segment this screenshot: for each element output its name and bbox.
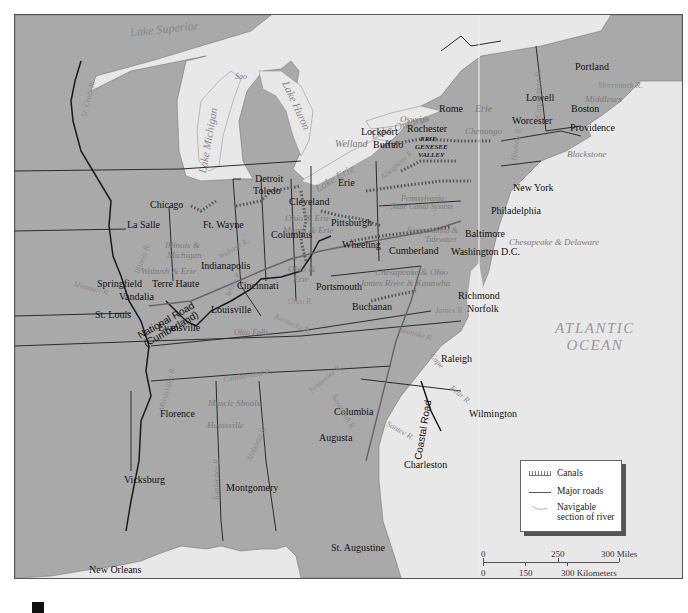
river-james: James R. (435, 307, 464, 315)
river-symbol-icon (529, 503, 551, 511)
canal-muscle-shoals: Muscle Shoals (208, 399, 260, 408)
city-portland: Portland (575, 62, 609, 72)
river-ohio: Ohio R. (288, 298, 313, 306)
city-cincinnati: Cincinnati (237, 281, 279, 291)
atlantic-line-1: ATLANTIC (555, 321, 635, 336)
corner-marker-icon (32, 602, 44, 613)
city-boston: Boston (571, 104, 599, 114)
canal-oswego: Oswego (400, 115, 429, 124)
city-lockport: Lockport (361, 127, 398, 137)
city-providence: Providence (570, 123, 615, 133)
city-vicksburg: Vicksburg (124, 475, 165, 485)
canal-genesee-2: GENESEE (415, 144, 448, 151)
city-portsmouth: Portsmouth (316, 282, 362, 292)
canal-sao: Sao (235, 73, 247, 81)
city-chicago: Chicago (150, 200, 183, 210)
city-indianapolis: Indianapolis (201, 261, 250, 271)
legend-river: Navigable section of river (529, 503, 615, 523)
canal-ohio-erie-2a: Ohio & (288, 265, 315, 274)
canal-ohio-erie-2b: Erie (293, 275, 309, 284)
city-pittsburgh: Pittsburgh (331, 218, 372, 228)
city-montgomery: Montgomery (226, 483, 278, 493)
city-louisville: Louisville (211, 305, 252, 315)
city-charleston: Charleston (404, 460, 447, 470)
river-connecticut: Connecticut R. (535, 70, 543, 118)
city-rochester: Rochester (407, 124, 447, 134)
city-baltimore: Baltimore (465, 229, 505, 239)
canal-chenango: Chenango (465, 127, 502, 136)
city-washington: Washington D.C. (451, 247, 520, 257)
canal-ohio-erie: Ohio & Erie (285, 214, 330, 223)
canal-susquehanna-1: Susquehanna & (407, 227, 458, 235)
canal-susquehanna-2: Tidewater (425, 236, 457, 244)
city-toledo: Toledo (253, 186, 281, 196)
canal-james-kanawha: James River & Kanawha (360, 279, 450, 288)
city-buchanan: Buchanan (352, 302, 392, 312)
canal-pennsylvania-2: State Canal System (391, 203, 453, 211)
city-terre-haute: Terre Haute (152, 279, 199, 289)
city-richmond: Richmond (458, 291, 500, 301)
canal-ohio-falls: Ohio Falls (234, 329, 268, 337)
city-erie: Erie (338, 178, 355, 188)
city-new-york: New York (513, 183, 554, 193)
city-wilmington: Wilmington (469, 409, 517, 419)
river-merrimack: Merrimack R. (598, 82, 642, 90)
city-raleigh: Raleigh (441, 354, 472, 364)
city-cleveland: Cleveland (289, 197, 330, 207)
road-symbol-icon (529, 492, 551, 493)
canal-chesapeake-delaware: Chesapeake & Delaware (509, 238, 599, 247)
canal-illinois-michigan-2: Michigan (167, 251, 202, 260)
canal-blackstone: Blackstone (567, 150, 607, 159)
city-detroit: Detroit (255, 174, 283, 184)
canal-miami-erie: Miami & Erie (283, 226, 334, 235)
scale-line (483, 562, 619, 563)
city-wheeling: Wheeling (342, 240, 381, 250)
city-cumberland: Cumberland (389, 246, 438, 256)
city-ft-wayne: Ft. Wayne (203, 220, 244, 230)
canal-chesapeake-ohio: Chesapeake & Ohio (375, 268, 448, 277)
city-buffalo: Buffalo (373, 140, 403, 150)
canal-huntsville: Huntsville (207, 421, 244, 430)
city-vandalia: Vandalia (119, 292, 154, 302)
canal-genesee-3: VALLEY (418, 152, 444, 159)
city-worcester: Worcester (512, 116, 552, 126)
canal-genesee-1: ERIE (420, 136, 437, 143)
city-norfolk: Norfolk (467, 304, 499, 314)
canal-welland: Welland (335, 139, 367, 149)
canal-symbol-icon (529, 471, 551, 476)
canal-middlesex: Middlesex (585, 95, 622, 104)
map-legend: Canals Major roads Navigable section of … (520, 460, 622, 532)
city-new-orleans: New Orleans (89, 565, 141, 575)
legend-roads: Major roads (529, 486, 603, 496)
canal-erie: Erie (475, 104, 492, 114)
city-philadelphia: Philadelphia (491, 206, 541, 216)
atlantic-ocean-label: ATLANTIC OCEAN (555, 321, 635, 353)
map-frame: Lake Superior Lake Michigan Lake Huron L… (14, 14, 683, 579)
city-rome: Rome (439, 104, 463, 114)
gulf-of-mexico-label: Gulf of Mexico (203, 577, 295, 579)
canal-wabash-erie: Wabash & Erie (141, 267, 196, 276)
city-st-augustine: St. Augustine (331, 543, 385, 553)
city-la-salle: La Salle (127, 220, 160, 230)
canal-illinois-michigan-1: Illinois & (165, 241, 200, 250)
city-st-louis: St. Louis (95, 310, 131, 320)
atlantic-line-2: OCEAN (555, 338, 635, 353)
city-augusta: Augusta (319, 433, 352, 443)
legend-canals: Canals (529, 468, 583, 478)
river-tombigbee: Tombigbee R. (213, 457, 221, 501)
